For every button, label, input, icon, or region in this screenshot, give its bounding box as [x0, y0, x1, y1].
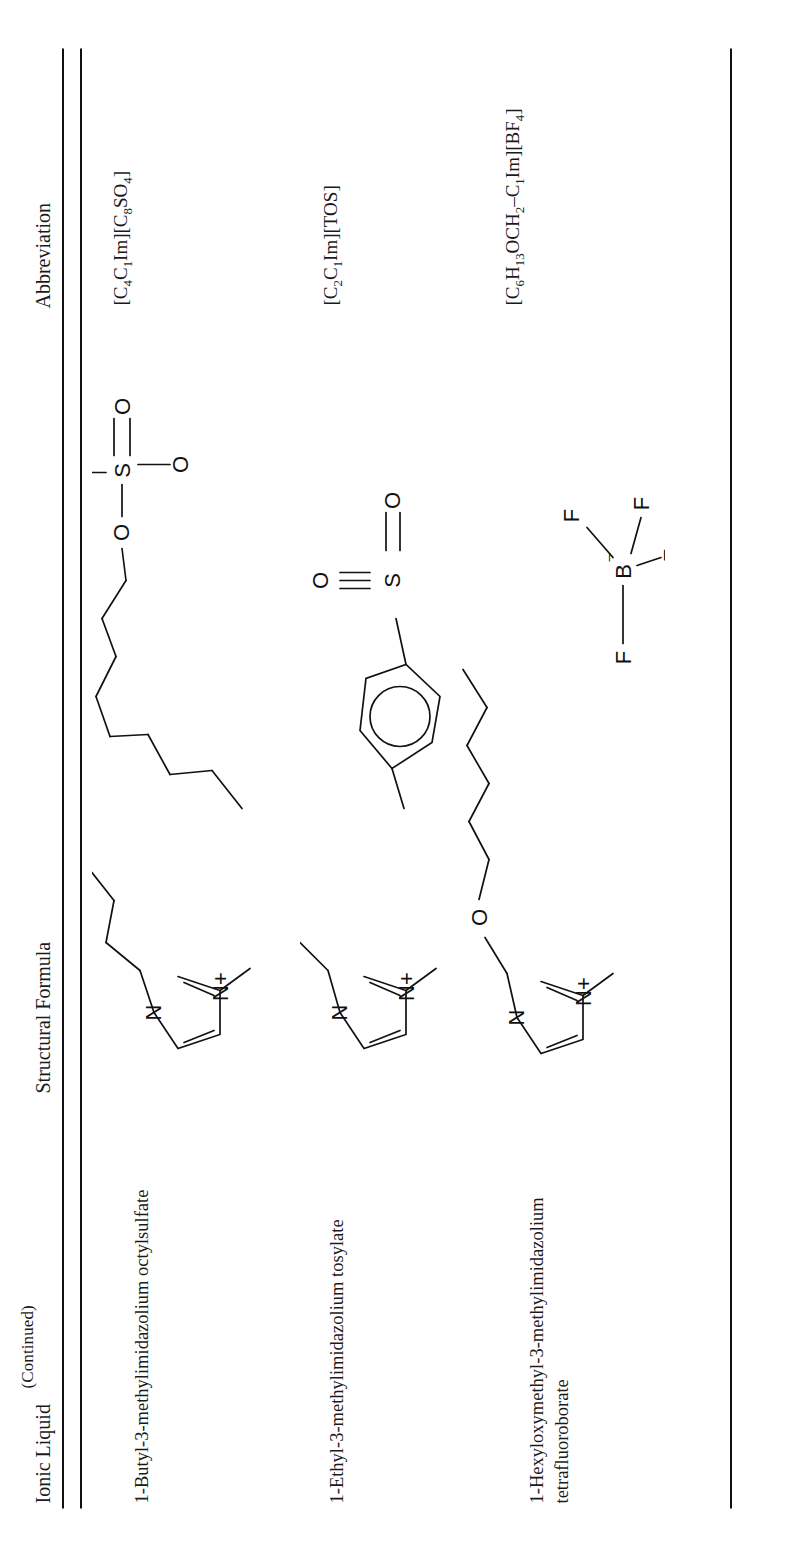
atom-label-S: S: [380, 573, 405, 588]
ionic-liquid-name: 1-Butyl-3-methylimidazolium octylsulfate: [132, 1189, 152, 1503]
atom-label-N: N: [327, 1004, 352, 1020]
abbreviation-value-row1: [C4C1Im][C8SO4]: [110, 170, 136, 305]
table-row: 1-Ethyl-3-methylimidazolium tosylate: [300, 1173, 350, 1503]
atom-label-N: N: [504, 1009, 529, 1025]
atom-label-F-topright: F: [559, 508, 584, 521]
table-row: 1-Hexyloxymethyl-3-methylimidazolium tet…: [500, 1173, 575, 1503]
table-page: (Continued) Ionic Liquid Structural Form…: [0, 0, 800, 1563]
structure-diagram-row2: N N+ O S O: [300, 348, 475, 1108]
structure-diagram-row1: N N+ O S O O: [92, 348, 282, 1108]
atom-label-B-minus: B: [611, 564, 636, 579]
table-rule-bottom: [730, 48, 732, 1508]
atom-label-O-minus: O: [308, 571, 333, 588]
atom-label-F-bottom: F: [659, 548, 665, 561]
atom-label-N-plus: N+: [394, 972, 419, 1001]
abbreviation-value-row3: [C6H13OCH2–C1Im][BF4]: [502, 108, 528, 305]
atom-label-N-plus: N+: [571, 977, 596, 1006]
atom-label-O: O: [380, 491, 405, 508]
ionic-liquid-name: 1-Ethyl-3-methylimidazolium tosylate: [327, 1219, 347, 1503]
column-header-abbreviation: Abbreviation: [32, 202, 55, 308]
structure-diagram-row3: N N+ O B – F F F F: [455, 333, 665, 1113]
table-rule-top: [62, 48, 64, 1508]
atom-label-O-ether: O: [467, 908, 492, 925]
continued-label: (Continued): [18, 1305, 38, 1388]
table-row: 1-Butyl-3-methylimidazolium octylsulfate: [105, 1173, 155, 1503]
column-header-structural-formula: Structural Formula: [32, 941, 55, 1093]
ionic-liquid-name: 1-Hexyloxymethyl-3-methylimidazolium tet…: [527, 1197, 572, 1503]
charge-minus: –: [600, 553, 616, 561]
atom-label-F-right: F: [629, 496, 654, 509]
atom-label-O-double-bottom: O: [168, 455, 193, 472]
atom-label-O-ester: O: [109, 523, 134, 540]
atom-label-O-double-right: O: [110, 397, 135, 414]
abbreviation-value-row2: [C2C1Im][TOS]: [320, 185, 346, 305]
atom-label-S: S: [110, 463, 135, 478]
atom-label-N: N: [141, 1004, 166, 1020]
rotated-page-wrapper: (Continued) Ionic Liquid Structural Form…: [0, 0, 800, 1563]
table-rule-header: [80, 48, 82, 1508]
atom-label-N-plus: N+: [208, 972, 233, 1001]
atom-label-F-left: F: [611, 650, 636, 663]
column-header-ionic-liquid: Ionic Liquid: [32, 1404, 55, 1503]
